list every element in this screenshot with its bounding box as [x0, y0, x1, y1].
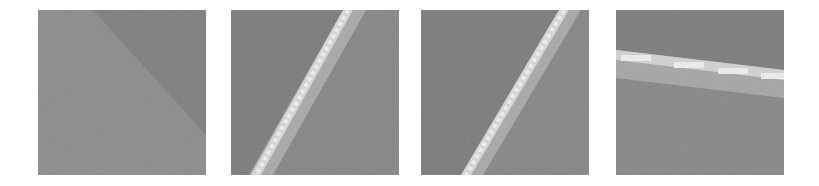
- faint-edge-patch: [38, 10, 206, 175]
- image-panel-2: [231, 10, 399, 175]
- image-panel-4: [616, 10, 784, 175]
- diagonal-line-patch: [421, 10, 589, 175]
- horizontal-stripe-patch: [616, 10, 784, 175]
- image-panel-3: [421, 10, 589, 175]
- diagonal-line-patch: [231, 10, 399, 175]
- image-panel-1: [38, 10, 206, 175]
